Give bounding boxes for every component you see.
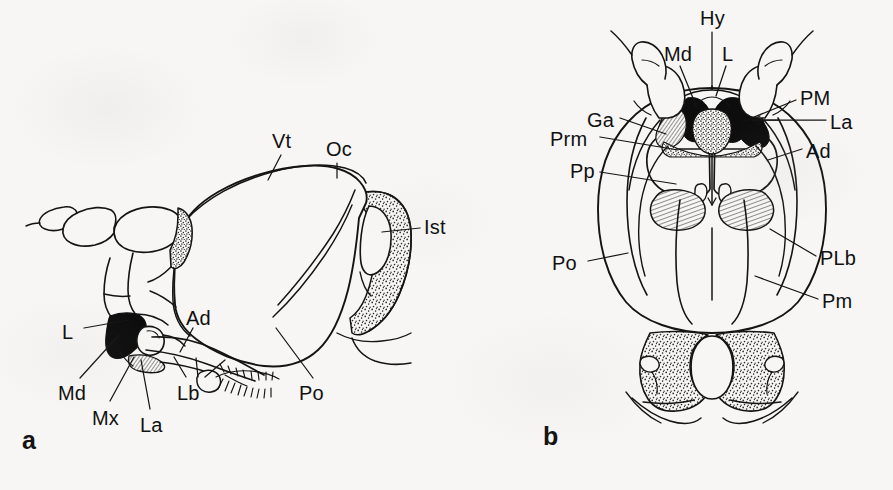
label-md: Md xyxy=(58,383,86,403)
label-ist: Ist xyxy=(424,217,446,237)
collar-notch-left xyxy=(640,356,659,372)
antenna-right-segment-1 xyxy=(758,42,792,85)
label-prm: Prm xyxy=(550,129,587,149)
panel-b-ventral-view xyxy=(588,31,826,423)
collar-notch-right xyxy=(765,356,784,372)
label-l: L xyxy=(62,322,73,342)
label-pm-mentum: Pm xyxy=(822,291,852,311)
neck-collar xyxy=(626,332,798,424)
label-hy: Hy xyxy=(700,8,725,28)
antenna-lateral xyxy=(26,207,192,282)
head-capsule-outline xyxy=(174,166,367,367)
antennal-socket-rim xyxy=(148,267,171,282)
label-po-ventral: Po xyxy=(552,253,577,273)
label-la-ventral: La xyxy=(830,112,853,132)
hypopharynx-stipple xyxy=(693,109,732,154)
antenna-segment-2 xyxy=(63,208,116,247)
labrum-lateral-edge xyxy=(104,258,112,318)
neck-ventral-outline xyxy=(352,338,411,364)
antenna-right-base xyxy=(792,31,813,55)
panel-letter-a: a xyxy=(22,428,36,453)
occipital-foramen xyxy=(691,336,733,399)
label-lb: Lb xyxy=(177,383,200,403)
panel-letter-b: b xyxy=(543,424,558,449)
setal-fringe xyxy=(216,364,279,398)
panel-a-lateral-view xyxy=(26,155,420,409)
clypeus-lateral-edge xyxy=(128,253,136,315)
antenna-left-base xyxy=(611,31,632,55)
leader-lb-1 xyxy=(174,357,186,377)
label-ad: Ad xyxy=(186,308,211,328)
antenna-base-line xyxy=(26,223,40,226)
labrum-suture xyxy=(104,294,130,296)
leader-mx xyxy=(110,357,134,401)
neck-membrane-lower-edge xyxy=(337,333,411,342)
label-pm-palp: PM xyxy=(800,88,830,108)
label-oc: Oc xyxy=(326,139,352,159)
antenna-left-segment-1 xyxy=(632,42,666,85)
label-po: Po xyxy=(299,383,324,403)
figure-root: a Vt Oc Ist L Ad Md Mx La Lb Po b Hy Md … xyxy=(0,0,893,490)
label-vt: Vt xyxy=(272,131,291,151)
label-ga: Ga xyxy=(587,110,614,130)
label-ad-ventral: Ad xyxy=(806,141,831,161)
label-md-ventral: Md xyxy=(664,44,692,64)
label-mx: Mx xyxy=(92,408,119,428)
label-pp: Pp xyxy=(570,161,595,181)
label-la: La xyxy=(140,415,163,435)
illustration-canvas xyxy=(0,0,893,490)
label-l-ventral: L xyxy=(722,44,733,64)
label-plb: PLb xyxy=(820,248,856,268)
